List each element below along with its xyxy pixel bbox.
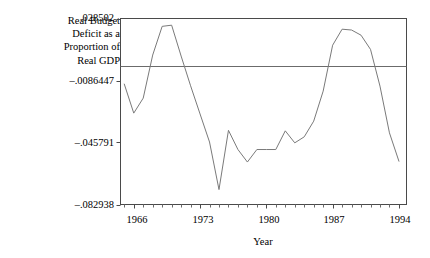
x-tick-marks (125, 205, 400, 209)
plot-frame (121, 19, 407, 205)
deficit-series-line (124, 25, 399, 189)
plot-canvas (0, 0, 430, 258)
y-tick-marks (117, 20, 121, 206)
chart-figure: Real Budget Deficit as a Proportion of R… (0, 0, 430, 258)
